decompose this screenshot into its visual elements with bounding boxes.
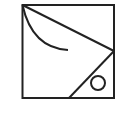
small-circle: [91, 76, 105, 90]
geometry-diagram: [0, 0, 118, 126]
outer-square: [23, 5, 115, 98]
curved-arc: [23, 5, 69, 50]
diagonal-line-bottom: [69, 51, 114, 98]
diagonal-line-top: [23, 5, 115, 51]
